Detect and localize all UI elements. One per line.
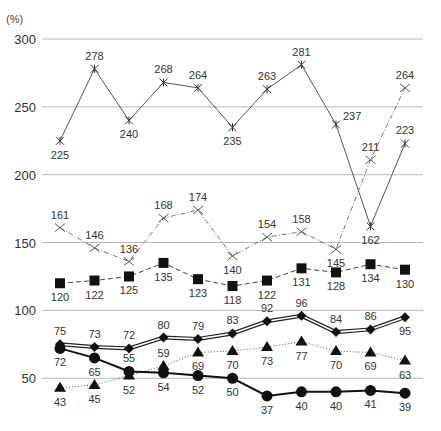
- data-label: 96: [295, 297, 307, 309]
- data-label: 75: [54, 325, 66, 337]
- diamond-marker-icon: [228, 328, 238, 338]
- data-label: 281: [292, 46, 310, 58]
- circle-marker-icon: [89, 352, 100, 363]
- x-marker-icon: [159, 214, 169, 222]
- data-label: 264: [189, 69, 207, 81]
- data-label: 146: [85, 229, 103, 241]
- data-label: 45: [88, 393, 100, 405]
- data-label: 50: [226, 386, 238, 398]
- data-label: 55: [123, 352, 135, 364]
- y-tick-label: 200: [14, 168, 36, 183]
- data-label: 59: [157, 347, 169, 359]
- data-label: 122: [258, 289, 276, 301]
- asterisk-marker-icon: [298, 61, 306, 69]
- diamond-marker-icon: [193, 334, 203, 344]
- data-label: 92: [261, 302, 273, 314]
- data-labels: 2252782402682642352632812371622231611461…: [51, 46, 414, 416]
- data-label: 80: [157, 319, 169, 331]
- x-marker-icon: [193, 206, 203, 214]
- data-label: 73: [88, 328, 100, 340]
- data-label: 86: [364, 310, 376, 322]
- data-label: 70: [226, 359, 238, 371]
- circle-marker-icon: [124, 366, 135, 377]
- data-label: 125: [120, 284, 138, 296]
- data-label: 140: [223, 264, 241, 276]
- data-label: 84: [330, 313, 342, 325]
- data-label: 52: [123, 384, 135, 396]
- data-label: 278: [85, 50, 103, 62]
- data-label: 235: [223, 135, 241, 147]
- data-label: 128: [327, 280, 345, 292]
- x-marker-icon: [90, 244, 100, 252]
- data-label: 37: [261, 404, 273, 416]
- data-label: 73: [261, 355, 273, 367]
- asterisk-marker-icon: [367, 222, 375, 230]
- circle-marker-icon: [365, 385, 376, 396]
- diamond-marker-icon: [159, 333, 169, 343]
- data-label: 131: [292, 276, 310, 288]
- triangle-marker-icon: [365, 346, 377, 356]
- data-label: 134: [361, 272, 379, 284]
- triangle-marker-icon: [296, 336, 308, 346]
- square-marker-icon: [90, 276, 100, 286]
- x-marker-icon: [228, 252, 238, 260]
- data-label: 79: [192, 320, 204, 332]
- circle-marker-icon: [158, 367, 169, 378]
- data-label: 174: [189, 191, 207, 203]
- data-label: 95: [399, 325, 411, 337]
- square-marker-icon: [159, 258, 169, 268]
- asterisk-marker-icon: [56, 137, 64, 145]
- y-tick-label: 100: [14, 303, 36, 318]
- data-label: 225: [51, 149, 69, 161]
- diamond-marker-icon: [262, 316, 272, 326]
- data-label: 223: [396, 124, 414, 136]
- data-label: 120: [51, 291, 69, 303]
- square-marker-icon: [366, 259, 376, 269]
- data-label: 158: [292, 213, 310, 225]
- data-label: 168: [154, 199, 172, 211]
- asterisk-marker-icon: [401, 139, 409, 147]
- square-marker-icon: [297, 263, 307, 273]
- data-label: 70: [330, 359, 342, 371]
- x-marker-icon: [297, 228, 307, 236]
- data-label: 162: [361, 234, 379, 246]
- data-label: 40: [330, 400, 342, 412]
- data-label: 52: [192, 384, 204, 396]
- square-marker-icon: [55, 278, 65, 288]
- circle-marker-icon: [262, 390, 273, 401]
- square-marker-icon: [124, 271, 134, 281]
- square-marker-icon: [193, 274, 203, 284]
- data-label: 161: [51, 209, 69, 221]
- x-marker-icon: [124, 258, 134, 266]
- data-label: 122: [85, 289, 103, 301]
- x-marker-icon: [262, 233, 272, 241]
- square-marker-icon: [262, 276, 272, 286]
- data-label: 65: [88, 366, 100, 378]
- triangle-marker-icon: [54, 382, 66, 392]
- data-label: 72: [123, 329, 135, 341]
- triangle-marker-icon: [330, 345, 342, 355]
- y-axis-ticks: 50100150200250300: [14, 32, 36, 386]
- y-tick-label: 150: [14, 236, 36, 251]
- data-label: 237: [343, 110, 361, 122]
- data-label: 43: [54, 396, 66, 408]
- data-label: 72: [54, 356, 66, 368]
- triangle-marker-icon: [89, 379, 101, 389]
- triangle-marker-icon: [227, 345, 239, 355]
- data-label: 54: [157, 381, 169, 393]
- y-axis-unit-label: (%): [6, 13, 23, 25]
- line-chart: (%) 50100150200250300 225278240268264235…: [0, 0, 441, 431]
- diamond-marker-icon: [400, 312, 410, 322]
- data-label: 130: [396, 278, 414, 290]
- data-label: 211: [362, 141, 380, 153]
- x-marker-icon: [366, 156, 376, 164]
- square-marker-icon: [400, 265, 410, 275]
- circle-marker-icon: [296, 386, 307, 397]
- asterisk-marker-icon: [125, 116, 133, 124]
- data-label: 123: [189, 287, 207, 299]
- asterisk-marker-icon: [229, 123, 237, 131]
- data-label: 77: [295, 350, 307, 362]
- data-label: 240: [120, 128, 138, 140]
- circle-marker-icon: [331, 386, 342, 397]
- data-label: 83: [226, 314, 238, 326]
